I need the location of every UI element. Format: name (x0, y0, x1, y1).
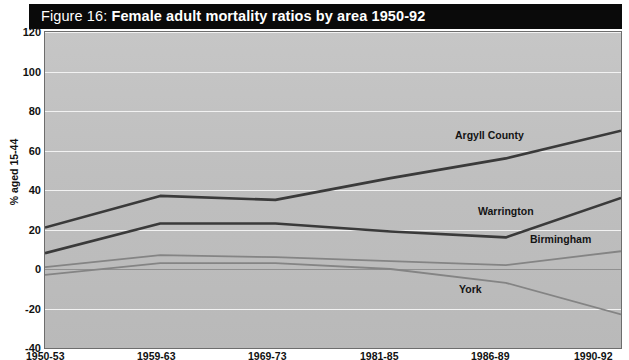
y-tick-label: -20 (1, 304, 41, 315)
figure-title-main: Female adult mortality ratios by area 19… (111, 8, 425, 24)
x-axis-ticks: 1950-53 1959-63 1969-73 1981-85 1986-89 … (0, 351, 629, 360)
y-tick-label: 40 (1, 185, 41, 196)
y-tick-label: 80 (1, 106, 41, 117)
series-label-birmingham: Birmingham (530, 234, 591, 245)
figure-title-prefix: Figure 16: (41, 8, 111, 24)
series-label-york: York (459, 284, 482, 295)
gridline-minus40 (45, 348, 621, 349)
series-line-argyll-county (45, 131, 621, 228)
plot-area: Argyll County Warrington Birmingham York (44, 31, 622, 349)
figure-title-banner: Figure 16: Female adult mortality ratios… (29, 4, 622, 29)
series-line-york (45, 263, 621, 314)
x-tick-label: 1981-85 (360, 351, 399, 360)
x-tick-label: 1959-63 (137, 351, 176, 360)
series-line-birmingham (45, 251, 621, 267)
y-tick-label: 60 (1, 146, 41, 157)
figure-container: Figure 16: Female adult mortality ratios… (0, 0, 629, 360)
y-tick-label: 0 (1, 264, 41, 275)
x-tick-label: 1950-53 (26, 351, 65, 360)
figure-title: Figure 16: Female adult mortality ratios… (29, 9, 425, 24)
series-label-argyll-county: Argyll County (455, 130, 524, 141)
x-tick-label: 1990-92 (574, 351, 613, 360)
y-tick-label: 120 (1, 27, 41, 38)
y-tick-label: 20 (1, 225, 41, 236)
x-tick-label: 1986-89 (471, 351, 510, 360)
chart-lines (45, 32, 621, 348)
x-tick-label: 1969-73 (248, 351, 287, 360)
series-label-warrington: Warrington (478, 206, 534, 217)
y-tick-label: 100 (1, 67, 41, 78)
